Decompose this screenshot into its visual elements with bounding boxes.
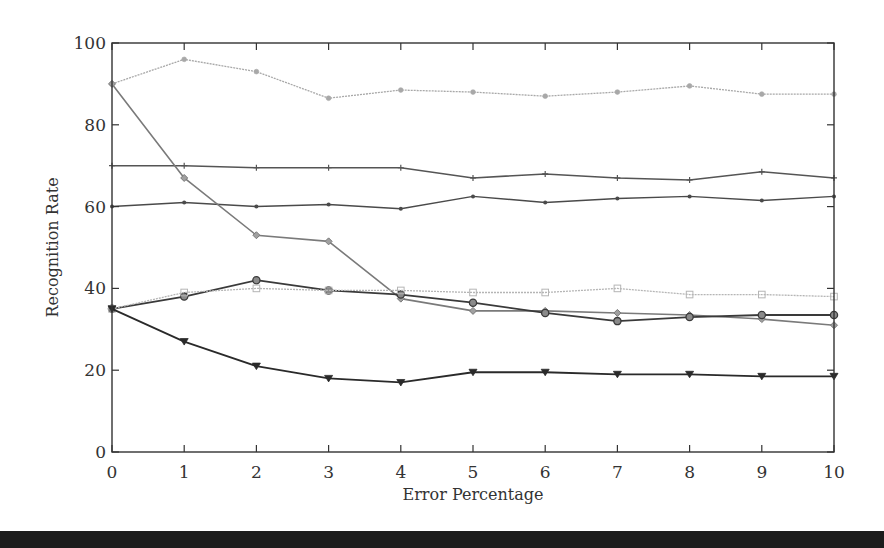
star-marker — [182, 57, 187, 62]
y-tick-label: 60 — [84, 197, 106, 217]
plus-marker — [614, 175, 620, 181]
y-axis-title: Recognition Rate — [43, 177, 62, 317]
star-marker — [471, 90, 476, 95]
diamond-marker — [614, 309, 621, 316]
circle-marker — [614, 318, 621, 325]
x-tick-label: 9 — [756, 462, 767, 482]
star-marker — [759, 92, 764, 97]
star-marker — [687, 84, 692, 89]
circle-marker — [253, 277, 260, 284]
circle-marker — [469, 299, 476, 306]
series-1-line — [110, 57, 837, 101]
star-marker — [615, 90, 620, 95]
x-tick-label: 10 — [823, 462, 845, 482]
plus-marker — [759, 169, 765, 175]
plus-marker — [687, 177, 693, 183]
x-tick-label: 4 — [395, 462, 406, 482]
x-tick-label: 0 — [107, 462, 118, 482]
circle-marker — [542, 309, 549, 316]
plus-marker — [181, 163, 187, 169]
dot-marker — [615, 196, 619, 200]
y-tick-label: 80 — [84, 115, 106, 135]
plus-marker — [326, 165, 332, 171]
x-tick-label: 8 — [684, 462, 695, 482]
y-tick-label: 20 — [84, 360, 106, 380]
circle-marker — [397, 291, 404, 298]
series-4-line — [109, 80, 838, 328]
circle-marker — [758, 311, 765, 318]
star-marker — [254, 69, 259, 74]
y-tick-label: 40 — [84, 278, 106, 298]
y-tick-label: 0 — [95, 442, 106, 462]
bottom-border-bar — [0, 531, 884, 548]
tick-labels: 012345678910020406080100 — [74, 33, 845, 482]
star-marker — [398, 88, 403, 93]
plus-marker — [542, 171, 548, 177]
x-axis-title: Error Percentage — [403, 485, 544, 504]
plot-frame — [112, 43, 834, 452]
circle-marker — [181, 293, 188, 300]
y-tick-label: 100 — [74, 33, 106, 53]
series-3-line — [110, 194, 836, 210]
line-chart: 012345678910020406080100 Error Percentag… — [0, 0, 884, 548]
dot-marker — [760, 198, 764, 202]
circle-marker — [686, 313, 693, 320]
dot-marker — [399, 207, 403, 211]
dot-marker — [688, 194, 692, 198]
diamond-marker — [470, 307, 477, 314]
x-tick-label: 3 — [323, 462, 334, 482]
series-2-line — [109, 163, 837, 183]
star-marker — [543, 94, 548, 99]
plus-marker — [470, 175, 476, 181]
x-tick-label: 1 — [179, 462, 190, 482]
plus-marker — [253, 165, 259, 171]
dot-marker — [182, 201, 186, 205]
dot-marker — [543, 201, 547, 205]
star-marker — [326, 96, 331, 101]
series-layer — [108, 57, 838, 386]
dot-marker — [471, 194, 475, 198]
dot-marker — [254, 205, 258, 209]
x-tick-label: 6 — [540, 462, 551, 482]
x-tick-label: 2 — [251, 462, 262, 482]
x-tick-label: 7 — [612, 462, 623, 482]
axis-ticks — [112, 43, 834, 452]
plus-marker — [398, 165, 404, 171]
x-tick-label: 5 — [468, 462, 479, 482]
dot-marker — [327, 203, 331, 207]
